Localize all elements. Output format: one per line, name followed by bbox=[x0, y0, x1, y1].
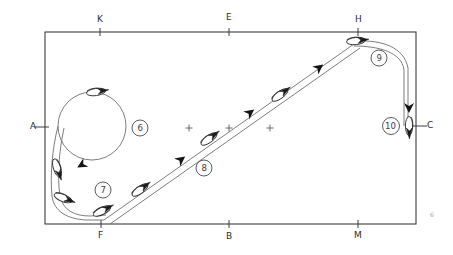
marker-E: E bbox=[226, 13, 232, 22]
marker-B: B bbox=[226, 232, 233, 241]
marker-M: M bbox=[354, 231, 362, 240]
step-8: 8 bbox=[202, 164, 207, 173]
step-6: 6 bbox=[138, 124, 143, 133]
diagram-canvas: AKEHCMBF 678910 6 bbox=[0, 0, 453, 255]
marker-K: K bbox=[97, 15, 103, 24]
marker-H: H bbox=[355, 15, 362, 24]
marker-F: F bbox=[98, 231, 104, 240]
page-corner-mark: 6 bbox=[430, 212, 434, 218]
step-7: 7 bbox=[101, 186, 106, 195]
step-10: 10 bbox=[385, 122, 396, 131]
marker-A: A bbox=[30, 122, 37, 131]
marker-C: C bbox=[427, 121, 434, 130]
step-9: 9 bbox=[377, 54, 382, 63]
